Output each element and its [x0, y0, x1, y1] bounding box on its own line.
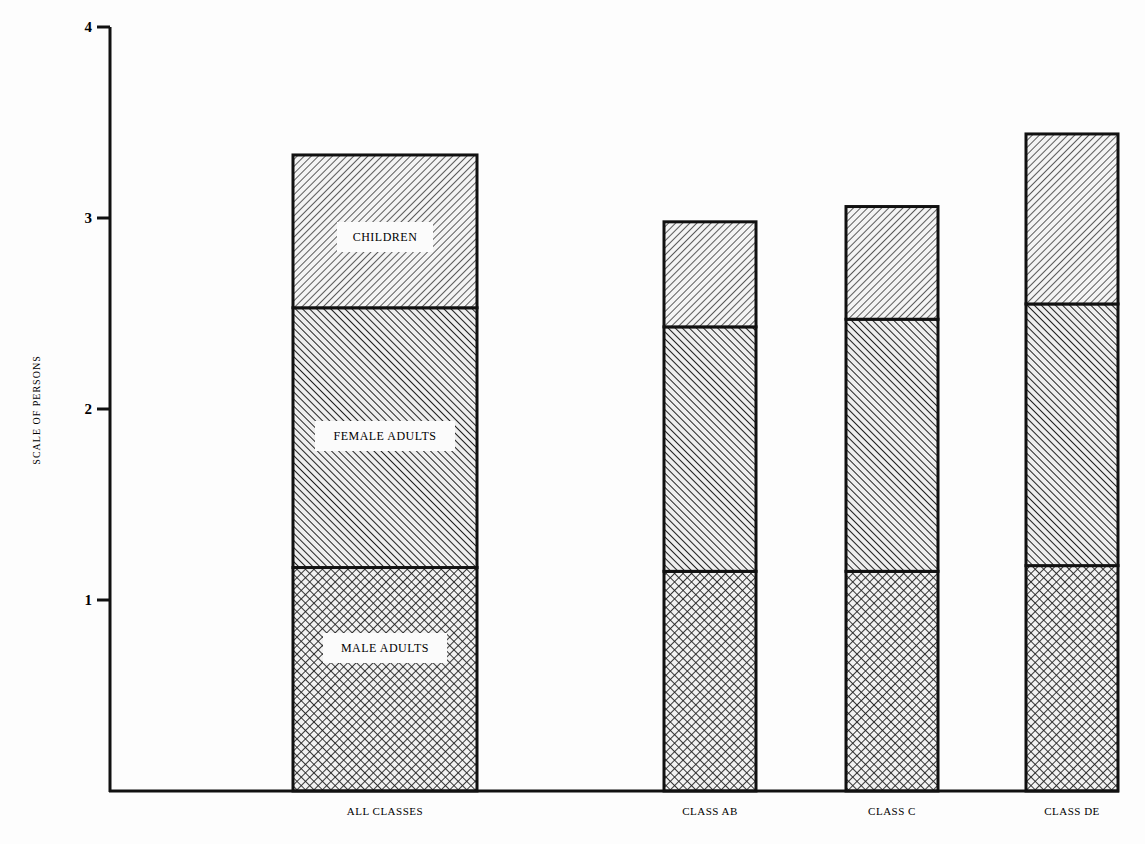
- bar-segment-male-adults: [1026, 566, 1118, 791]
- segment-label-male-adults: MALE ADULTS: [341, 641, 429, 655]
- bar-segment-children: [846, 207, 938, 320]
- y-tick-label: 3: [85, 210, 93, 226]
- stacked-bar-chart: 1234SCALE OF PERSONS MALE ADULTSFEMALE A…: [0, 0, 1145, 844]
- bar-segment-children: [1026, 134, 1118, 304]
- bar-segment-children: [664, 222, 756, 327]
- y-axis-title: SCALE OF PERSONS: [31, 355, 42, 464]
- bar-segment-female-adults: [1026, 304, 1118, 566]
- bar-class-ab: [664, 222, 756, 791]
- category-label: CLASS C: [868, 805, 916, 817]
- axes-group: 1234SCALE OF PERSONS: [31, 19, 1119, 792]
- bar-segment-female-adults: [664, 327, 756, 571]
- bar-class-c: [846, 207, 938, 791]
- y-tick-label: 4: [85, 19, 93, 35]
- category-label: ALL CLASSES: [347, 805, 423, 817]
- bar-segment-male-adults: [846, 571, 938, 791]
- category-label: CLASS DE: [1044, 805, 1100, 817]
- segment-label-children: CHILDREN: [353, 230, 418, 244]
- segment-label-female-adults: FEMALE ADULTS: [333, 429, 436, 443]
- bar-segment-male-adults: [293, 568, 477, 791]
- bar-class-de: [1026, 134, 1118, 791]
- bar-segment-male-adults: [664, 571, 756, 791]
- bar-segment-female-adults: [846, 319, 938, 571]
- y-tick-label: 2: [85, 401, 93, 417]
- category-label: CLASS AB: [682, 805, 738, 817]
- y-tick-label: 1: [85, 592, 93, 608]
